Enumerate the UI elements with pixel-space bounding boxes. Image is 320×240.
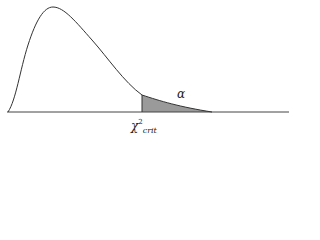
alpha-label: α (177, 87, 185, 101)
alpha-symbol: α (177, 87, 185, 101)
critical-value-label: χ2crit (131, 119, 157, 135)
chi-subscript: crit (143, 126, 157, 135)
chi-superscript: 2 (138, 118, 142, 126)
